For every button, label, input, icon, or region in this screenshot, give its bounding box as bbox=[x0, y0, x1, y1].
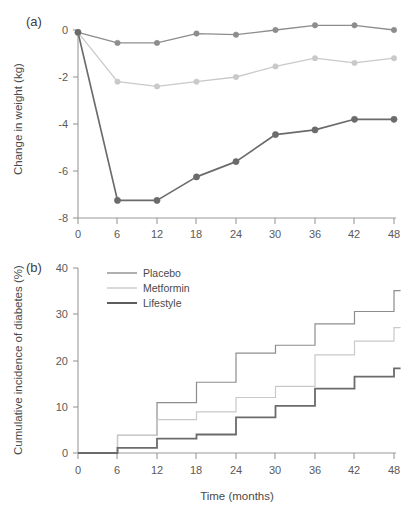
panel-a-label: (a) bbox=[26, 14, 42, 29]
panel-a-point-lifestyle-48 bbox=[391, 116, 397, 122]
panel-a-point-metformin-6 bbox=[115, 79, 120, 84]
panel-b-y-ticks: 0 10 20 30 40 bbox=[56, 262, 78, 459]
panel-a-point-metformin-30 bbox=[273, 64, 278, 69]
panel-a-point-placebo-42 bbox=[352, 23, 357, 28]
panel-a-series-lifestyle bbox=[78, 32, 394, 200]
panel-a-point-lifestyle-0 bbox=[75, 29, 81, 35]
panel-a-point-lifestyle-12 bbox=[154, 197, 160, 203]
panel-b-ytick-1: 10 bbox=[56, 401, 68, 413]
panel-a-point-lifestyle-30 bbox=[272, 131, 278, 137]
panel-a-point-placebo-36 bbox=[312, 23, 317, 28]
panel-b-ytick-2: 20 bbox=[56, 355, 68, 367]
panel-a-plot-area bbox=[75, 23, 397, 204]
panel-a-ytick-3: -6 bbox=[58, 165, 68, 177]
panel-b-label: (b) bbox=[26, 260, 42, 275]
panel-b-series-lifestyle bbox=[78, 368, 401, 453]
panel-a-xtick-1: 6 bbox=[114, 228, 120, 240]
panel-b-xtick-3: 18 bbox=[190, 464, 202, 476]
panel-b-x-ticks: 0 6 12 18 24 30 36 42 48 bbox=[75, 453, 400, 476]
panel-b-x-axis-title: Time (months) bbox=[200, 490, 274, 502]
panel-a-point-lifestyle-42 bbox=[351, 116, 357, 122]
panel-a-ytick-4: -8 bbox=[58, 212, 68, 224]
panel-a-xtick-7: 42 bbox=[348, 228, 360, 240]
legend-item-placebo[interactable]: Placebo bbox=[107, 267, 181, 279]
panel-b-xtick-5: 30 bbox=[269, 464, 281, 476]
panel-b: (b) Cumulative incidence of diabetes (%)… bbox=[12, 260, 401, 502]
panel-a-xtick-0: 0 bbox=[75, 228, 81, 240]
panel-a-point-lifestyle-18 bbox=[193, 174, 199, 180]
panel-b-xtick-4: 24 bbox=[230, 464, 242, 476]
panel-a-point-metformin-48 bbox=[391, 56, 396, 61]
panel-b-ytick-3: 30 bbox=[56, 308, 68, 320]
two-panel-chart-svg: (a) Change in weight (kg) 0 -2 -4 -6 -8 bbox=[0, 0, 415, 513]
panel-a-xtick-6: 36 bbox=[309, 228, 321, 240]
legend-item-metformin[interactable]: Metformin bbox=[107, 282, 190, 294]
panel-b-ytick-4: 40 bbox=[56, 262, 68, 274]
panel-a-point-placebo-6 bbox=[115, 40, 120, 45]
panel-b-xtick-2: 12 bbox=[151, 464, 163, 476]
panel-a-ytick-2: -4 bbox=[58, 118, 68, 130]
panel-a-point-metformin-12 bbox=[154, 84, 159, 89]
panel-a-point-placebo-48 bbox=[391, 27, 396, 32]
panel-b-ytick-0: 0 bbox=[62, 447, 68, 459]
panel-a-xtick-3: 18 bbox=[190, 228, 202, 240]
figure-container: (a) Change in weight (kg) 0 -2 -4 -6 -8 bbox=[0, 0, 415, 513]
panel-a-point-metformin-42 bbox=[352, 60, 357, 65]
panel-a-point-lifestyle-36 bbox=[312, 127, 318, 133]
panel-b-xtick-8: 48 bbox=[388, 464, 400, 476]
panel-b-xtick-1: 6 bbox=[114, 464, 120, 476]
panel-b-series-metformin bbox=[78, 328, 401, 453]
panel-a-point-placebo-12 bbox=[154, 40, 159, 45]
panel-a-point-lifestyle-24 bbox=[233, 159, 239, 165]
legend-label-placebo: Placebo bbox=[143, 267, 181, 279]
panel-b-xtick-7: 42 bbox=[348, 464, 360, 476]
legend-label-metformin: Metformin bbox=[143, 282, 190, 294]
panel-a-point-placebo-30 bbox=[273, 27, 278, 32]
panel-a-point-lifestyle-6 bbox=[114, 197, 120, 203]
panel-b-xtick-0: 0 bbox=[75, 464, 81, 476]
panel-a-point-metformin-36 bbox=[312, 56, 317, 61]
panel-a-point-metformin-18 bbox=[194, 79, 199, 84]
panel-b-y-axis-title: Cumulative incidence of diabetes (%) bbox=[12, 265, 24, 455]
legend-label-lifestyle: Lifestyle bbox=[143, 297, 182, 309]
panel-a-x-ticks: 0 6 12 18 24 30 36 42 48 bbox=[75, 218, 400, 240]
panel-a: (a) Change in weight (kg) 0 -2 -4 -6 -8 bbox=[12, 14, 400, 240]
panel-a-ytick-0: 0 bbox=[62, 24, 68, 36]
legend: Placebo Metformin Lifestyle bbox=[107, 267, 190, 309]
panel-a-xtick-2: 12 bbox=[151, 228, 163, 240]
panel-a-point-metformin-24 bbox=[233, 74, 238, 79]
panel-b-series-placebo bbox=[78, 291, 401, 453]
panel-a-xtick-5: 30 bbox=[269, 228, 281, 240]
panel-a-y-axis-title: Change in weight (kg) bbox=[12, 63, 24, 175]
panel-a-point-placebo-24 bbox=[233, 32, 238, 37]
panel-a-xtick-4: 24 bbox=[230, 228, 242, 240]
panel-b-plot-area bbox=[78, 291, 401, 453]
panel-a-y-ticks: 0 -2 -4 -6 -8 bbox=[58, 24, 78, 224]
panel-a-ytick-1: -2 bbox=[58, 71, 68, 83]
panel-a-point-placebo-18 bbox=[194, 31, 199, 36]
panel-b-xtick-6: 36 bbox=[309, 464, 321, 476]
panel-a-xtick-8: 48 bbox=[388, 228, 400, 240]
legend-item-lifestyle[interactable]: Lifestyle bbox=[107, 297, 182, 309]
